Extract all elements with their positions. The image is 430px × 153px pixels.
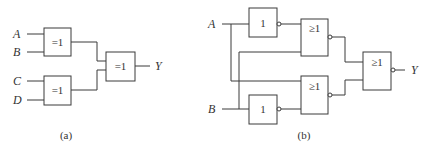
output-label-y-a: Y xyxy=(155,59,163,73)
wire-nor2-to-nor3 xyxy=(332,80,363,95)
caption-b: (b) xyxy=(298,129,311,142)
nor-gate-3-bubble xyxy=(391,68,395,72)
nor-gate-3-symbol: ≥1 xyxy=(371,56,383,68)
diagram-a: A B C D =1 =1 =1 Y (a) xyxy=(12,27,163,142)
logic-diagrams: A B C D =1 =1 =1 Y (a) A B 1 ≥1 xyxy=(0,0,430,153)
input-label-b-b: B xyxy=(208,102,216,116)
nor-gate-2-symbol: ≥1 xyxy=(309,80,321,92)
wire-nor1-to-nor3 xyxy=(332,37,363,62)
nor-gate-1-bubble xyxy=(328,35,332,39)
input-wires-a xyxy=(27,34,44,100)
not-gate-1-symbol: 1 xyxy=(260,17,266,29)
xor-gate-2-symbol: =1 xyxy=(52,84,64,96)
input-label-d: D xyxy=(12,93,22,107)
diagram-b: A B 1 ≥1 ≥1 1 ≥1 Y (b) xyxy=(207,8,419,142)
not-gate-1-bubble xyxy=(277,22,281,26)
input-label-b: B xyxy=(13,45,21,59)
wire-xor1-to-xor3 xyxy=(71,42,106,61)
caption-a: (a) xyxy=(60,129,73,142)
input-label-a: A xyxy=(12,27,21,41)
output-label-y-b: Y xyxy=(411,63,419,77)
wire-xor2-to-xor3 xyxy=(71,70,106,90)
nor-gate-1-symbol: ≥1 xyxy=(309,22,321,34)
xor-gate-1-symbol: =1 xyxy=(52,36,64,48)
input-label-a-b: A xyxy=(207,17,216,31)
not-gate-2-symbol: 1 xyxy=(260,103,266,115)
nor-gate-2-bubble xyxy=(328,93,332,97)
not-gate-2-bubble xyxy=(277,107,281,111)
input-label-c: C xyxy=(13,74,22,88)
xor-gate-3-symbol: =1 xyxy=(115,60,127,72)
